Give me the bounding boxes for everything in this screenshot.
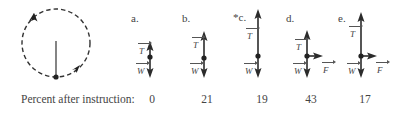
option-a-diagram — [147, 41, 154, 78]
percent-row-label: Percent after instruction: — [21, 93, 135, 105]
percent-e: 17 — [353, 93, 377, 105]
option-c-label: *c. — [233, 12, 246, 23]
vector-f-label: F — [377, 66, 383, 75]
ball — [53, 74, 58, 79]
option-c-diagram — [255, 9, 262, 78]
option-b-label: b. — [182, 13, 190, 24]
vector-w-label: W — [245, 67, 253, 76]
vector-w-label: W — [348, 67, 356, 76]
vector-t-label: T — [350, 30, 355, 39]
percent-b: 21 — [195, 93, 219, 105]
option-a-label: a. — [131, 13, 139, 24]
direction-arrow-icon — [72, 65, 80, 73]
vector-t-label: T — [193, 41, 198, 50]
pendulum-diagram — [22, 9, 90, 80]
percent-d: 43 — [299, 93, 323, 105]
vector-f-label: F — [323, 66, 329, 75]
percent-c: 19 — [250, 93, 274, 105]
vector-t-label: T — [139, 47, 144, 56]
percent-a: 0 — [140, 93, 164, 105]
option-e-diagram — [358, 12, 378, 78]
vector-t-label: T — [247, 32, 252, 41]
vector-w-label: W — [191, 67, 199, 76]
option-d-label: d. — [286, 13, 294, 24]
vector-w-label: W — [137, 67, 145, 76]
vector-t-label: T — [296, 43, 301, 52]
vector-w-label: W — [294, 67, 302, 76]
option-e-label: e. — [338, 13, 346, 24]
